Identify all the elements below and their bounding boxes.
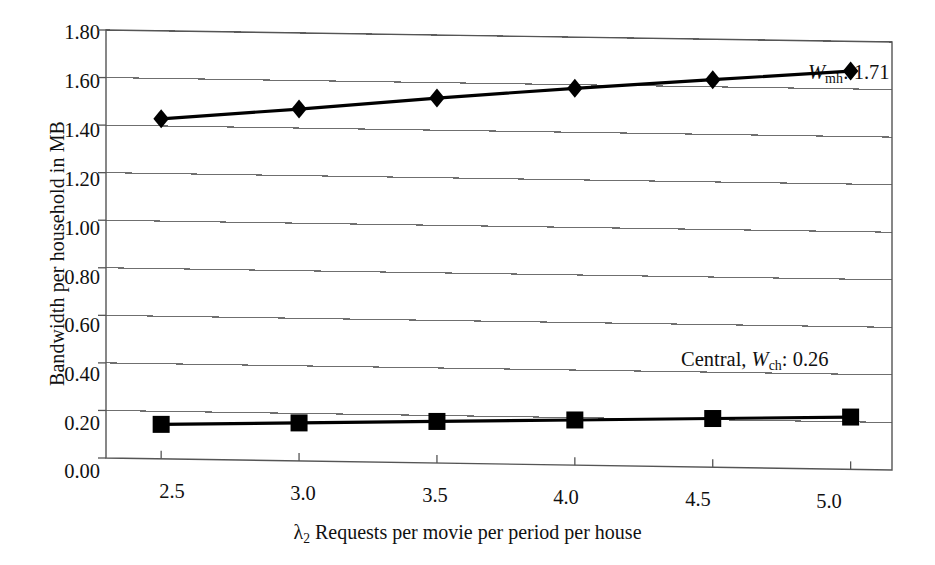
gridline <box>106 220 892 232</box>
square-marker <box>842 409 859 426</box>
square-marker <box>291 414 308 431</box>
gridline <box>106 315 892 327</box>
diamond-marker <box>567 79 583 98</box>
gridline <box>106 363 892 375</box>
data-series <box>153 62 858 129</box>
square-marker <box>566 411 583 428</box>
diamond-marker <box>429 89 445 108</box>
gridline <box>106 125 892 137</box>
plot-border <box>106 30 892 470</box>
gridline <box>106 173 892 185</box>
square-marker <box>428 413 445 430</box>
series-line <box>161 71 850 119</box>
chart-figure: Bandwidth per household in MB 1.80 1.60 … <box>0 0 935 565</box>
y-tick-marks <box>98 30 106 458</box>
gridlines <box>106 30 892 422</box>
diamond-marker <box>843 62 859 81</box>
diamond-marker <box>291 100 307 119</box>
square-marker <box>153 416 170 433</box>
data-series-layer <box>153 62 859 433</box>
axis-frame <box>106 30 892 470</box>
square-marker <box>704 410 721 427</box>
gridline <box>106 268 892 280</box>
gridline <box>106 78 892 90</box>
plot-area <box>0 0 935 565</box>
